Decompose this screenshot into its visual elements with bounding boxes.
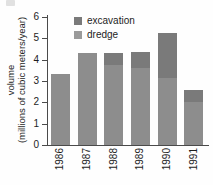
bar-segment-dredge-1990 [158,78,177,145]
bar-1986 [51,74,70,145]
legend-swatch-dredge [74,31,82,39]
y-tick-0 [42,145,47,146]
x-tick-label-1991: 1991 [177,148,211,182]
bar-1987 [78,53,97,145]
chart-legend: excavation dredge [74,14,135,42]
legend-label-dredge: dredge [87,30,118,40]
bar-chart-figure: volume (millions of cubic meters/year) 0… [0,0,213,185]
bar-1991 [184,90,203,145]
y-tick-label-2: 2 [17,97,39,107]
y-tick-label-4: 4 [17,55,39,65]
bar-segment-excavation-1989 [131,52,150,69]
bar-segment-excavation-1991 [184,90,203,102]
legend-label-excavation: excavation [87,16,135,26]
bar-1990 [158,33,177,145]
legend-item-dredge: dredge [74,28,135,41]
y-tick-label-3: 3 [17,76,39,86]
bar-segment-dredge-1987 [78,53,97,145]
bar-segment-excavation-1988 [104,53,123,65]
bar-segment-dredge-1986 [51,74,70,145]
y-tick-label-1: 1 [17,119,39,129]
y-axis-title-line-1: volume [5,17,16,143]
legend-item-excavation: excavation [74,14,135,27]
bar-segment-dredge-1989 [131,68,150,145]
y-tick-label-0: 0 [17,140,39,150]
bar-1989 [131,52,150,145]
bar-segment-excavation-1990 [158,33,177,78]
y-tick-label-6: 6 [17,12,39,22]
x-axis-spine [47,145,209,146]
bar-segment-dredge-1988 [104,65,123,145]
legend-swatch-excavation [74,17,82,25]
bar-segment-dredge-1991 [184,102,203,145]
y-tick-label-5: 5 [17,33,39,43]
scan-artifact [6,0,15,6]
bar-1988 [104,53,123,145]
